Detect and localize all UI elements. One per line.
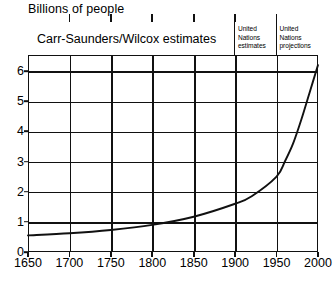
band-carr-saunders: Carr-Saunders/Wilcox estimates xyxy=(28,22,235,55)
band-un-estimates-text: United Nations estimates xyxy=(238,25,266,51)
top-tick-1950 xyxy=(276,14,278,22)
band-un-projections-line1: United xyxy=(280,25,311,34)
top-axis-ticks xyxy=(28,14,318,22)
y-axis-labels: 6543210 xyxy=(0,0,24,281)
x-tick-label-1700: 1700 xyxy=(47,256,91,270)
population-chart: Billions of people Carr-Saunders/Wilcox … xyxy=(0,0,336,281)
band-un-estimates: United Nations estimates xyxy=(235,22,277,55)
y-tick-label-6: 6 xyxy=(2,65,24,77)
top-tick-1900 xyxy=(234,14,236,22)
x-axis-labels: 16501700175018001850190019502000 xyxy=(0,256,336,274)
population-curve-path xyxy=(28,65,318,235)
band-carr-saunders-label: Carr-Saunders/Wilcox estimates xyxy=(37,32,216,46)
band-un-estimates-line2: Nations xyxy=(238,34,266,43)
population-curve xyxy=(28,22,318,252)
x-tick-label-1850: 1850 xyxy=(172,256,216,270)
x-tick-label-1650: 1650 xyxy=(6,256,50,270)
x-tick-label-1900: 1900 xyxy=(213,256,257,270)
x-tick-label-2000: 2000 xyxy=(296,256,336,270)
era-band: Carr-Saunders/Wilcox estimates United Na… xyxy=(28,22,318,56)
top-tick-1800 xyxy=(151,14,153,22)
band-un-projections: United Nations projections xyxy=(277,22,319,55)
y-tick-label-5: 5 xyxy=(2,95,24,107)
x-tick-label-1750: 1750 xyxy=(89,256,133,270)
top-tick-1850 xyxy=(193,14,195,22)
x-tick-label-1800: 1800 xyxy=(130,256,174,270)
top-tick-1750 xyxy=(110,14,112,22)
band-un-estimates-line1: United xyxy=(238,25,266,34)
y-tick-label-4: 4 xyxy=(2,125,24,137)
band-un-projections-text: United Nations projections xyxy=(280,25,311,51)
band-un-projections-line2: Nations xyxy=(280,34,311,43)
y-tick-label-1: 1 xyxy=(2,216,24,228)
band-un-projections-line3: projections xyxy=(280,42,311,51)
top-tick-1700 xyxy=(69,14,71,22)
y-tick-label-2: 2 xyxy=(2,186,24,198)
band-un-estimates-line3: estimates xyxy=(238,42,266,51)
y-tick-label-3: 3 xyxy=(2,156,24,168)
x-tick-label-1950: 1950 xyxy=(255,256,299,270)
